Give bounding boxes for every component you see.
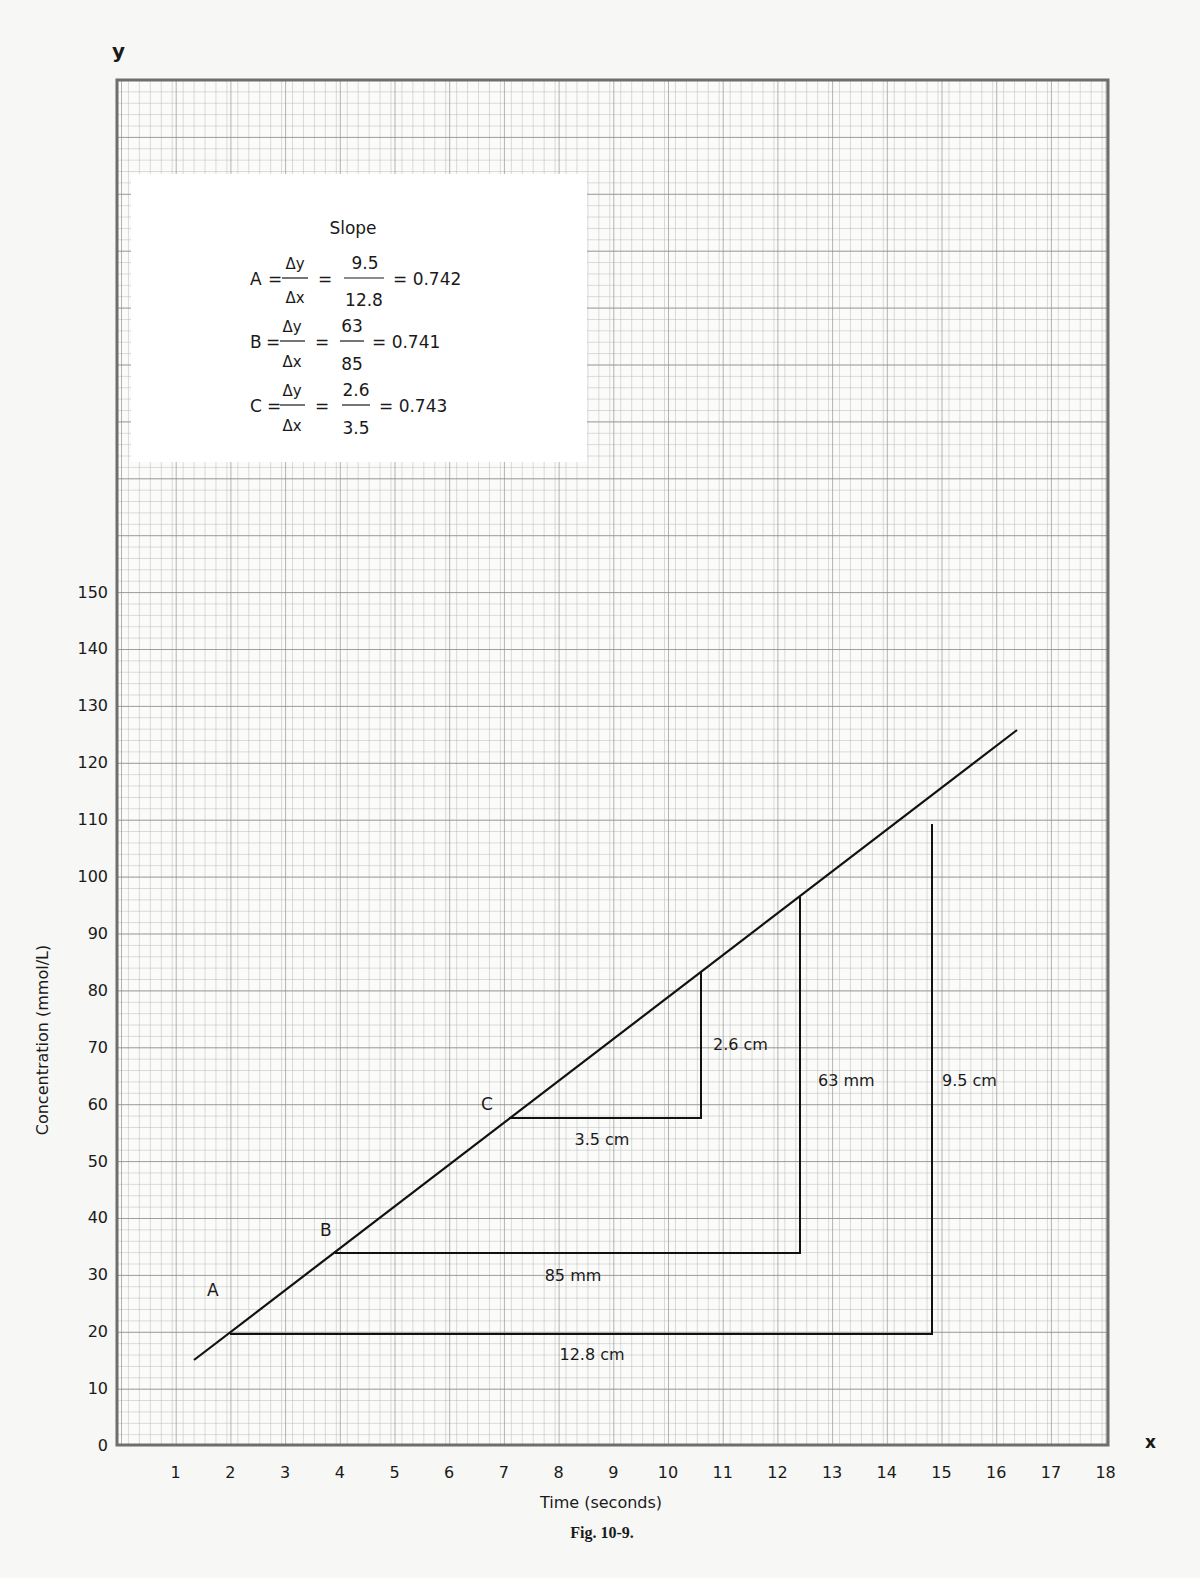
slope-figure: y Slope A = Δy Δx = 9.5 12.8 = 0.742 B =… [0,0,1200,1578]
x-axis-letter: x [1145,1432,1156,1452]
x-tick-label: 4 [335,1463,345,1482]
y-tick-label: 150 [77,583,108,602]
y-tick-label: 70 [88,1038,108,1057]
figure-caption: Fig. 10-9. [570,1524,634,1542]
x-tick-label: 9 [608,1463,618,1482]
svg-text:Δx: Δx [282,353,301,371]
svg-text:=: = [318,269,332,289]
y-tick-label: 60 [88,1095,108,1114]
svg-text:2.6: 2.6 [342,380,369,400]
y-tick-label: 80 [88,981,108,1000]
y-tick-label: 20 [88,1322,108,1341]
slope-title: Slope [329,218,376,238]
x-tick-label: 2 [225,1463,235,1482]
svg-text:B: B [250,332,262,352]
svg-text:= 0.741: = 0.741 [372,332,440,352]
x-tick-label: 18 [1095,1463,1115,1482]
x-tick-label: 12 [767,1463,787,1482]
svg-text:= 0.742: = 0.742 [393,269,461,289]
svg-text:Δy: Δy [282,318,301,336]
b-dy-label: 63 mm [818,1071,875,1090]
svg-text:Δx: Δx [285,289,304,307]
svg-text:=: = [268,269,282,289]
x-tick-label: 10 [658,1463,678,1482]
y-tick-label: 100 [77,867,108,886]
x-tick-labels: 123456789101112131415161718 [171,1463,1116,1482]
y-tick-label: 110 [77,810,108,829]
x-tick-label: 7 [499,1463,509,1482]
y-tick-label: 40 [88,1208,108,1227]
y-tick-label: 30 [88,1265,108,1284]
svg-text:63: 63 [341,316,363,336]
y-tick-label: 90 [88,924,108,943]
svg-text:=: = [315,396,329,416]
x-tick-label: 15 [931,1463,951,1482]
svg-text:Δy: Δy [282,382,301,400]
x-tick-label: 17 [1041,1463,1061,1482]
point-b-label: B [320,1220,332,1240]
svg-text:=: = [267,396,281,416]
x-tick-label: 1 [171,1463,181,1482]
x-tick-label: 14 [877,1463,897,1482]
x-tick-label: 3 [280,1463,290,1482]
y-tick-label: 120 [77,753,108,772]
c-dy-label: 2.6 cm [713,1035,768,1054]
svg-text:3.5: 3.5 [342,418,369,438]
x-tick-label: 6 [444,1463,454,1482]
y-tick-label: 0 [98,1436,108,1455]
svg-text:85: 85 [341,354,363,374]
svg-text:A: A [250,269,262,289]
svg-text:9.5: 9.5 [351,253,378,273]
svg-text:=: = [266,332,280,352]
c-dx-label: 3.5 cm [575,1130,630,1149]
svg-text:=: = [315,332,329,352]
y-axis-title: Concentration (mmol/L) [33,945,52,1135]
svg-text:Δy: Δy [285,255,304,273]
y-tick-labels: 0102030405060708090100110120130140150 [77,583,108,1456]
svg-text:12.8: 12.8 [345,290,383,310]
y-axis-letter: y [112,39,125,63]
point-a-label: A [207,1280,219,1300]
a-dx-label: 12.8 cm [559,1345,624,1364]
y-tick-label: 140 [77,639,108,658]
svg-text:Δx: Δx [282,417,301,435]
svg-text:C: C [250,396,262,416]
x-tick-label: 13 [822,1463,842,1482]
b-dx-label: 85 mm [545,1266,602,1285]
slope-box: Slope A = Δy Δx = 9.5 12.8 = 0.742 B = Δ… [131,174,587,462]
x-tick-label: 16 [986,1463,1006,1482]
y-tick-label: 50 [88,1152,108,1171]
y-tick-label: 130 [77,696,108,715]
y-tick-label: 10 [88,1379,108,1398]
x-tick-label: 5 [389,1463,399,1482]
x-axis-title: Time (seconds) [539,1493,662,1512]
a-dy-label: 9.5 cm [942,1071,997,1090]
point-c-label: C [481,1094,493,1114]
svg-text:= 0.743: = 0.743 [379,396,447,416]
x-tick-label: 8 [554,1463,564,1482]
x-tick-label: 11 [713,1463,733,1482]
